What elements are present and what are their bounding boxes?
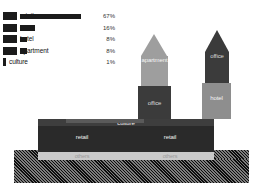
podium-retail-band: retail retail (38, 126, 214, 152)
podium-others-band: others others (38, 152, 214, 160)
left-tower-office-block: office (138, 86, 171, 119)
right-tower-roof-icon (205, 30, 229, 52)
right-tower-office-block: office (205, 52, 229, 83)
left-tower-apartment-block: apartment (141, 56, 168, 86)
podium-others-label-right: others (82, 153, 258, 159)
left-tower-apartment-label: apartment (141, 57, 168, 63)
diagram-canvas: retail 67% office 16% hotel 8% apartment… (0, 0, 263, 187)
right-tower-office-label: office (205, 53, 229, 59)
podium-culture-highlight (66, 119, 144, 123)
podium-retail-label-right: retail (82, 134, 258, 140)
ground-hatch (14, 159, 249, 183)
left-tower-roof-icon (141, 34, 167, 56)
right-tower-hotel-block: hotel (202, 83, 231, 119)
left-tower-office-label: office (138, 100, 171, 106)
right-tower-hotel-label: hotel (202, 95, 231, 101)
building-section-diagram: others others retail retail culture offi… (0, 0, 263, 187)
